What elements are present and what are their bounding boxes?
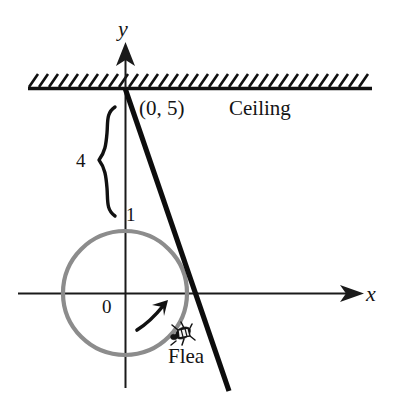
flea-label: Flea [168,346,204,367]
x-axis-label: x [366,283,376,305]
radius-value-label: 1 [126,205,136,224]
ceiling-group [28,74,372,89]
ceiling-hatching-icon [29,74,368,87]
ceiling-label: Ceiling [229,98,291,119]
y-axis-label: y [118,18,128,40]
point-coordinate-label: (0, 5) [139,98,185,119]
distance-brace-icon [99,107,115,216]
figure-canvas: y x (0, 5) Ceiling 4 1 0 Flea [0,0,395,409]
brace-value-label: 4 [76,151,86,170]
counterclockwise-rotation-arrow-icon [137,300,168,330]
origin-label: 0 [102,297,112,316]
